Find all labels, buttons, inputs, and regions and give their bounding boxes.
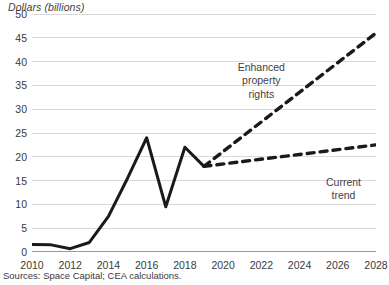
y-tick-label: 25 <box>15 127 27 139</box>
annotation-enhanced-property-rights: Enhanced property rights <box>223 61 299 102</box>
x-tick-label: 2022 <box>250 259 273 271</box>
y-tick-label: 0 <box>21 246 27 258</box>
annotation-current-line1: Current <box>310 176 378 190</box>
chart-figure: Dollars (billions) 05101520253035404550 … <box>0 0 389 285</box>
y-tick-label: 20 <box>15 151 27 163</box>
source-note: Sources: Space Capital; CEA calculations… <box>3 270 181 281</box>
y-tick-label: 15 <box>15 175 27 187</box>
y-tick-label: 50 <box>15 8 27 20</box>
annotation-enhanced-line1: Enhanced <box>223 61 299 75</box>
annotation-enhanced-line2: property <box>223 74 299 88</box>
x-tick-label: 2028 <box>364 259 387 271</box>
y-tick-label: 10 <box>15 198 27 210</box>
y-tick-label: 5 <box>21 222 27 234</box>
annotation-current-trend: Current trend <box>310 176 378 203</box>
y-tick-label: 40 <box>15 56 27 68</box>
x-tick-label: 2026 <box>326 259 349 271</box>
plot-canvas <box>32 14 376 252</box>
annotation-current-line2: trend <box>310 189 378 203</box>
y-tick-label: 45 <box>15 32 27 44</box>
x-tick-label: 2020 <box>211 259 234 271</box>
y-tick-label: 35 <box>15 79 27 91</box>
series-line-1 <box>32 138 204 249</box>
x-tick-label: 2024 <box>288 259 311 271</box>
y-tick-label: 30 <box>15 103 27 115</box>
plot-area: 05101520253035404550 2010201220142016201… <box>32 14 376 252</box>
annotation-enhanced-line3: rights <box>223 88 299 102</box>
data-series-layer <box>32 33 376 249</box>
